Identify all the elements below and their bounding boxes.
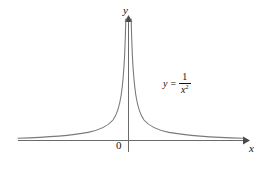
- fraction-denominator: x2: [179, 84, 190, 95]
- equation-annotation: y = 1 x2: [163, 72, 191, 95]
- equation-fraction: 1 x2: [179, 72, 190, 95]
- curve-left-branch: [18, 19, 126, 138]
- function-graph-figure: y x 0 y = 1 x2: [0, 0, 266, 170]
- plot-canvas: [0, 0, 266, 170]
- fraction-numerator: 1: [180, 72, 189, 83]
- x-axis-label: x: [249, 143, 254, 154]
- origin-label: 0: [116, 140, 122, 151]
- denominator-exponent: 2: [186, 84, 189, 90]
- equation-equals-sign: =: [170, 79, 176, 89]
- equation-lhs: y: [163, 79, 167, 89]
- y-axis-label: y: [123, 5, 128, 16]
